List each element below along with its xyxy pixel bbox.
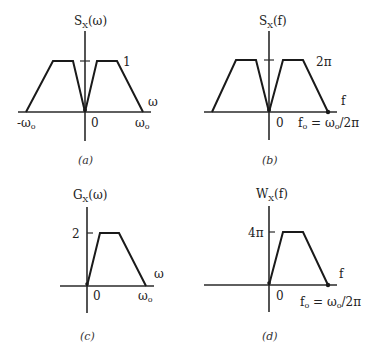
f0-dot: [326, 110, 330, 114]
panel-title: SX(f): [259, 14, 287, 30]
panel-d: WX(f) 4π f 0 fo = ωo/2π (d): [204, 187, 361, 343]
origin-dot: [83, 108, 87, 112]
x-variable-label: f: [341, 94, 347, 108]
f0-dot: [326, 283, 330, 287]
level-label: 2π: [316, 55, 332, 69]
caption-a: (a): [78, 154, 93, 167]
panel-title: GX(ω): [73, 188, 107, 204]
caption-c: (c): [80, 330, 95, 343]
level-label: 2: [72, 227, 80, 241]
f0-label: fo = ωo/2π: [298, 116, 359, 131]
panel-title: WX(f): [256, 187, 288, 203]
omega0-label: ωo: [138, 289, 153, 304]
spectrum-curve: [269, 232, 328, 285]
spectrum-curve: [87, 233, 146, 286]
zero-label: 0: [93, 289, 101, 303]
spectral-density-figure: SX(ω) 1 ω 0 -ωo ωo (a) SX(f) 2π f 0 fo =…: [0, 0, 372, 351]
origin-dot: [267, 108, 271, 112]
spectrum-curve-left: [26, 61, 85, 112]
spectrum-curve-right: [85, 61, 143, 112]
caption-d: (d): [262, 330, 278, 343]
x-variable-label: ω: [148, 95, 158, 109]
x-variable-label: f: [339, 267, 345, 281]
zero-label: 0: [91, 116, 99, 130]
panel-c: GX(ω) 2 ω 0 ωo (c): [60, 188, 164, 343]
zero-label: 0: [276, 116, 284, 130]
panel-b: SX(f) 2π f 0 fo = ωo/2π (b): [204, 14, 359, 167]
f0-label: fo = ωo/2π: [300, 295, 361, 310]
panel-title: SX(ω): [74, 14, 107, 30]
x-variable-label: ω: [154, 267, 164, 281]
level-label: 4π: [248, 226, 264, 240]
origin-dot: [267, 281, 271, 285]
panel-a: SX(ω) 1 ω 0 -ωo ωo (a): [17, 14, 158, 167]
caption-b: (b): [262, 154, 278, 167]
spectrum-curve-left: [212, 60, 269, 112]
level-label: 1: [123, 55, 131, 69]
neg-omega0-label: -ωo: [17, 116, 36, 131]
omega0-label: ωo: [135, 116, 150, 131]
origin-dot: [85, 282, 89, 286]
zero-label: 0: [276, 289, 284, 303]
